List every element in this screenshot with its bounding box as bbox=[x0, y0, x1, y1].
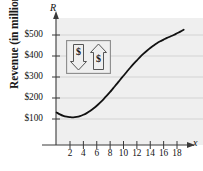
y-tick-label-500: $500 bbox=[9, 30, 43, 39]
plot-background bbox=[56, 18, 203, 145]
dollar-glyph-up: $ bbox=[96, 53, 101, 64]
dollar-sign-illustration: $ $ bbox=[66, 40, 111, 74]
revenue-chart-figure: $ $ Revenue (in millions) $100$200$300$4… bbox=[0, 0, 203, 171]
y-tick-label-100: $100 bbox=[9, 114, 43, 123]
dollar-glyph-down: $ bbox=[76, 46, 81, 57]
x-tick-label-18: 18 bbox=[167, 149, 187, 158]
y-axis-tick-labels: $100$200$300$400$500 bbox=[9, 0, 43, 171]
y-tick-label-300: $300 bbox=[9, 72, 43, 81]
y-tick-label-200: $200 bbox=[9, 93, 43, 102]
x-axis-variable-label: x bbox=[193, 137, 197, 148]
x-axis-tick-labels: 24681012141618 bbox=[0, 149, 203, 163]
y-tick-label-400: $400 bbox=[9, 51, 43, 60]
y-axis-variable-label: R bbox=[50, 2, 56, 13]
